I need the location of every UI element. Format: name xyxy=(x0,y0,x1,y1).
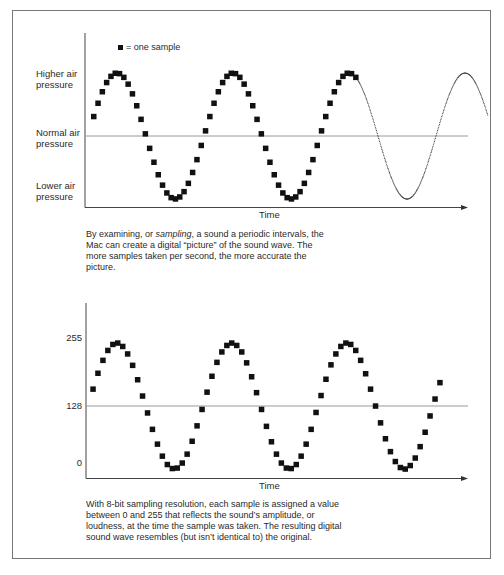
sample-point xyxy=(403,466,409,472)
sample-point xyxy=(140,393,146,399)
sample-point xyxy=(209,374,215,380)
sample-point xyxy=(328,362,334,368)
y-label-lower-pressure: Lower air pressure xyxy=(36,180,75,202)
sample-point xyxy=(216,89,222,95)
y-label-normal-pressure: Normal air pressure xyxy=(36,127,80,149)
y-label-line: Normal air xyxy=(36,127,80,138)
sample-point xyxy=(422,430,428,436)
sample-point xyxy=(147,146,153,152)
sample-point xyxy=(125,81,130,87)
sample-point xyxy=(135,377,141,383)
sample-point xyxy=(323,377,329,383)
sample-point xyxy=(239,349,245,355)
sample-point xyxy=(263,146,269,152)
sample-point xyxy=(189,439,195,445)
sample-point xyxy=(194,423,200,429)
sample-point xyxy=(353,348,359,354)
sample-point xyxy=(165,462,171,468)
sample-point xyxy=(332,89,338,95)
sample-point xyxy=(151,160,157,166)
sample-point xyxy=(249,374,255,380)
y-tick-128: 128 xyxy=(52,400,82,411)
sample-point xyxy=(272,172,278,178)
sample-point xyxy=(358,358,364,364)
sample-point xyxy=(280,190,286,196)
sample-point xyxy=(254,390,259,396)
sample-point xyxy=(190,170,196,176)
sample-point xyxy=(150,427,156,433)
sample-point xyxy=(211,101,217,107)
y-label-line: pressure xyxy=(36,138,80,149)
sample-point xyxy=(417,444,423,450)
sample-point xyxy=(336,80,342,86)
sample-point xyxy=(333,351,339,357)
sample-point xyxy=(274,451,280,457)
top-x-axis-arrow-icon xyxy=(461,205,468,210)
sample-square-icon xyxy=(118,45,123,50)
sample-point xyxy=(353,75,359,81)
sample-point xyxy=(170,466,176,472)
sample-point xyxy=(269,439,275,445)
sample-point xyxy=(95,101,101,107)
sample-point xyxy=(284,465,290,471)
y-label-line: Higher air xyxy=(36,68,77,79)
sample-point xyxy=(306,170,312,176)
sample-point xyxy=(302,181,308,187)
sample-point xyxy=(104,80,110,86)
sample-point xyxy=(254,117,259,123)
top-caption: By examining, or sampling, a sound a per… xyxy=(86,229,324,273)
caption-text: By examining, or xyxy=(86,229,156,239)
sample-point xyxy=(229,340,235,346)
bottom-caption: With 8-bit sampling resolution, each sam… xyxy=(86,499,351,543)
sample-point xyxy=(308,427,314,433)
sample-point xyxy=(348,342,354,348)
top-x-axis-label: Time xyxy=(259,209,280,220)
y-label-line: pressure xyxy=(36,79,77,90)
sample-point xyxy=(105,348,111,354)
sample-point xyxy=(155,441,161,447)
sample-point xyxy=(323,114,329,120)
sample-point xyxy=(437,380,443,386)
y-tick-255: 255 xyxy=(52,332,82,343)
sample-point xyxy=(224,343,230,349)
sample-point xyxy=(156,172,162,178)
sample-point xyxy=(432,396,438,402)
sample-point xyxy=(427,413,433,419)
sample-point xyxy=(408,463,414,469)
sample-point xyxy=(293,194,299,200)
sample-point xyxy=(241,81,247,87)
y-label-line: Lower air xyxy=(36,180,75,191)
sample-point xyxy=(219,349,225,355)
caption-emphasis: sampling xyxy=(156,229,192,239)
sample-point xyxy=(134,103,140,109)
sample-point xyxy=(220,80,226,86)
sample-point xyxy=(194,157,200,163)
y-label-higher-pressure: Higher air pressure xyxy=(36,68,77,90)
sample-point xyxy=(319,128,325,134)
sample-point xyxy=(313,410,319,416)
sample-point xyxy=(164,190,170,196)
sample-point xyxy=(100,89,106,95)
sample-point xyxy=(214,360,220,366)
sample-point xyxy=(259,407,265,413)
sample-point xyxy=(125,351,130,357)
sample-point xyxy=(327,101,333,107)
sample-point xyxy=(373,403,379,409)
sample-point xyxy=(90,386,96,392)
sample-point xyxy=(315,143,321,149)
sample-point xyxy=(199,407,205,413)
sample-point xyxy=(143,131,149,137)
bottom-x-axis-label: Time xyxy=(259,480,280,491)
sample-point xyxy=(138,117,144,123)
sample-point xyxy=(398,465,404,471)
sample-point xyxy=(279,460,285,466)
sample-point xyxy=(250,103,256,109)
sample-point xyxy=(259,131,265,137)
sample-point xyxy=(297,189,303,195)
sample-point xyxy=(237,75,243,81)
sample-point xyxy=(91,114,97,120)
sample-point xyxy=(120,344,126,350)
sample-point xyxy=(363,371,369,377)
bottom-x-axis-arrow-icon xyxy=(461,476,468,481)
sample-point xyxy=(393,459,399,465)
